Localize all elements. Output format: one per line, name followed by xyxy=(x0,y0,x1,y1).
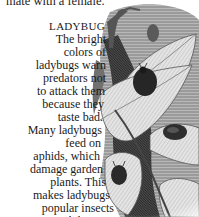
previous-paragraph-fragment: mate with a female. xyxy=(6,0,105,8)
ladybug-caption: LADYBUG The bright colors of ladybugs wa… xyxy=(0,20,199,217)
caption-line: with humans. xyxy=(53,215,118,217)
